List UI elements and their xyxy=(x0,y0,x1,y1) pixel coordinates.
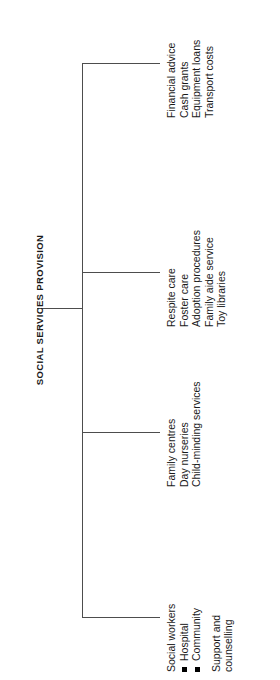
leaf-item: Equipment loans xyxy=(190,40,203,118)
branch-connector-social-workers xyxy=(82,617,160,618)
leaf-item: Respite care xyxy=(165,230,178,327)
leaf-item-label: Adoption procedures xyxy=(190,230,202,327)
leaf-item: Support and xyxy=(210,604,223,672)
leaf-item: Hospital xyxy=(178,604,191,672)
leaf-item-label: counselling xyxy=(222,619,234,672)
square-bullet-icon xyxy=(182,667,187,672)
leaf-item-label: Social workers xyxy=(165,604,177,672)
leaf-item-label: Child-minding services xyxy=(190,381,202,487)
leaf-item-label: Equipment loans xyxy=(190,40,202,118)
leaf-item: Social workers xyxy=(165,604,178,672)
leaf-item: counselling xyxy=(222,604,235,672)
leaf-item: Child-minding services xyxy=(190,381,203,487)
leaf-item-label: Foster care xyxy=(178,274,190,327)
leaf-item-label: Financial advice xyxy=(165,43,177,118)
branch-connector-family-centres xyxy=(82,432,160,433)
leaf-item: Community xyxy=(190,604,203,672)
leaf-item-label: Support and xyxy=(210,615,222,672)
leaf-item: Cash grants xyxy=(178,40,191,118)
tree-diagram: SOCIAL SERVICES PROVISION Social workers… xyxy=(0,0,280,680)
leaf-item: Day nurseries xyxy=(178,381,191,487)
tree-spine xyxy=(82,63,83,618)
branch-connector-financial-advice xyxy=(82,63,160,64)
branch-group-respite-care: Respite careFoster careAdoption procedur… xyxy=(165,230,228,327)
leaf-item-label: Family centres xyxy=(165,419,177,487)
leaf-item: Adoption procedures xyxy=(190,230,203,327)
leaf-item: Toy libraries xyxy=(215,230,228,327)
branch-group-family-centres: Family centresDay nurseriesChild-minding… xyxy=(165,381,203,487)
leaf-item: Family centres xyxy=(165,381,178,487)
leaf-item-label: Respite care xyxy=(165,268,177,327)
leaf-item-label: Hospital xyxy=(178,623,190,661)
leaf-item: Transport costs xyxy=(203,40,216,118)
leaf-spacer xyxy=(203,604,210,672)
leaf-item-label: Toy libraries xyxy=(215,271,227,327)
leaf-item-label: Family aide service xyxy=(203,237,215,327)
leaf-item-label: Community xyxy=(190,608,202,661)
leaf-item: Financial advice xyxy=(165,40,178,118)
branch-connector-respite-care xyxy=(82,272,160,273)
leaf-item: Foster care xyxy=(178,230,191,327)
branch-group-financial-advice: Financial adviceCash grantsEquipment loa… xyxy=(165,40,215,118)
leaf-item-label: Day nurseries xyxy=(178,422,190,487)
leaf-item-label: Cash grants xyxy=(178,61,190,118)
square-bullet-icon xyxy=(195,667,200,672)
leaf-item: Family aide service xyxy=(203,230,216,327)
branch-group-social-workers: Social workersHospitalCommunitySupport a… xyxy=(165,604,235,672)
leaf-item-label: Transport costs xyxy=(203,46,215,118)
root-label: SOCIAL SERVICES PROVISION xyxy=(34,200,45,420)
